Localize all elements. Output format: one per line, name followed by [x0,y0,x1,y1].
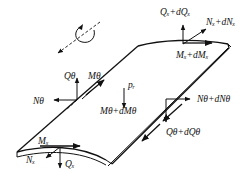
label-mx-dmx: Mₓ+dMₓ [175,50,209,60]
label-ntheta: Nθ [32,96,44,106]
label-mtheta-dmtheta: Mθ+dMθ [99,106,137,116]
label-nx-dnx: Nₓ+dNₓ [205,17,236,27]
label-qtheta-dqtheta: Qθ+dQθ [166,127,201,137]
label-nx: Nₓ [25,155,35,165]
label-qtheta: Qθ [64,71,76,81]
rotation-axis-icon [58,22,100,53]
shell-element-diagram: Qₓ+dQₓ Nₓ+dNₓ Mₓ+dMₓ Qθ Mθ pᵣ Nθ Mθ+dMθ … [0,0,250,174]
label-qx-dqx: Qₓ+dQₓ [160,7,191,17]
label-mtheta: Mθ [87,71,101,81]
label-pr: pᵣ [127,80,135,90]
label-qx: Qₓ [65,159,75,169]
label-ntheta-dntheta: Nθ+dNθ [196,94,231,104]
label-mx: Mₓ [37,136,49,146]
left-edge-forces [54,78,77,110]
m-theta-arrow [82,80,104,99]
